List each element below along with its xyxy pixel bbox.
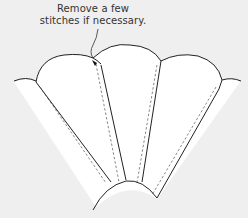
leader-line [91,29,98,58]
fan-fabric-area [14,45,240,207]
fan-blade-diagram [0,0,248,218]
